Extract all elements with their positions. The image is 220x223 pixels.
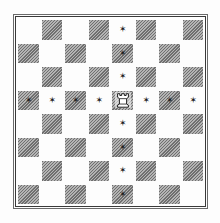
square-f3 <box>135 136 159 160</box>
star-marker-icon: ✶ <box>48 96 56 105</box>
square-d4 <box>88 112 112 136</box>
dark-square-hatching <box>42 161 63 181</box>
dark-square-hatching <box>136 161 157 181</box>
square-e7: ✶ <box>111 42 135 66</box>
star-marker-icon: ✶ <box>25 96 33 105</box>
star-marker-icon: ✶ <box>142 96 150 105</box>
square-e8: ✶ <box>111 18 135 42</box>
star-marker-icon: ✶ <box>119 25 127 34</box>
square-h8 <box>182 18 206 42</box>
dark-square-hatching <box>89 67 110 87</box>
square-h3 <box>182 136 206 160</box>
dark-square-hatching <box>65 185 86 205</box>
square-e3: ✶ <box>111 136 135 160</box>
square-h5: ✶ <box>182 89 206 113</box>
dark-square-hatching <box>183 161 204 181</box>
diagram-canvas: ✶✶✶✶✶✶✶✶✶✶✶✶✶✶ <box>0 0 220 223</box>
square-g4 <box>158 112 182 136</box>
square-e6: ✶ <box>111 65 135 89</box>
square-b2 <box>41 159 65 183</box>
square-d5: ✶ <box>88 89 112 113</box>
square-b1 <box>41 183 65 207</box>
dark-square-hatching <box>159 138 180 158</box>
square-a7 <box>17 42 41 66</box>
star-marker-icon: ✶ <box>119 190 127 199</box>
square-c6 <box>64 65 88 89</box>
dark-square-hatching <box>65 44 86 64</box>
star-marker-icon: ✶ <box>189 96 197 105</box>
square-h2 <box>182 159 206 183</box>
square-b5: ✶ <box>41 89 65 113</box>
square-c5: ✶ <box>64 89 88 113</box>
white-rook-icon <box>113 91 133 111</box>
square-f1 <box>135 183 159 207</box>
square-b7 <box>41 42 65 66</box>
square-f6 <box>135 65 159 89</box>
square-g6 <box>158 65 182 89</box>
square-g7 <box>158 42 182 66</box>
square-f7 <box>135 42 159 66</box>
square-a4 <box>17 112 41 136</box>
star-marker-icon: ✶ <box>95 96 103 105</box>
dark-square-hatching <box>42 20 63 40</box>
square-a6 <box>17 65 41 89</box>
dark-square-hatching <box>18 185 39 205</box>
square-g3 <box>158 136 182 160</box>
dark-square-hatching <box>18 44 39 64</box>
square-g5: ✶ <box>158 89 182 113</box>
square-g2 <box>158 159 182 183</box>
square-g1 <box>158 183 182 207</box>
square-f8 <box>135 18 159 42</box>
square-e5 <box>111 89 135 113</box>
square-f5: ✶ <box>135 89 159 113</box>
dark-square-hatching <box>18 138 39 158</box>
dark-square-hatching <box>89 20 110 40</box>
square-f4 <box>135 112 159 136</box>
square-c1 <box>64 183 88 207</box>
dark-square-hatching <box>89 161 110 181</box>
star-marker-icon: ✶ <box>119 143 127 152</box>
star-marker-icon: ✶ <box>119 166 127 175</box>
dark-square-hatching <box>136 114 157 134</box>
star-marker-icon: ✶ <box>166 96 174 105</box>
square-b8 <box>41 18 65 42</box>
square-a8 <box>17 18 41 42</box>
square-a3 <box>17 136 41 160</box>
dark-square-hatching <box>42 114 63 134</box>
square-b6 <box>41 65 65 89</box>
square-e4: ✶ <box>111 112 135 136</box>
square-d1 <box>88 183 112 207</box>
square-d3 <box>88 136 112 160</box>
square-c8 <box>64 18 88 42</box>
chessboard-inner-border: ✶✶✶✶✶✶✶✶✶✶✶✶✶✶ <box>15 16 206 207</box>
square-d2 <box>88 159 112 183</box>
square-e1: ✶ <box>111 183 135 207</box>
dark-square-hatching <box>136 67 157 87</box>
square-g8 <box>158 18 182 42</box>
star-marker-icon: ✶ <box>72 96 80 105</box>
dark-square-hatching <box>136 20 157 40</box>
square-d6 <box>88 65 112 89</box>
star-marker-icon: ✶ <box>119 72 127 81</box>
square-c7 <box>64 42 88 66</box>
square-c3 <box>64 136 88 160</box>
square-h7 <box>182 42 206 66</box>
square-d8 <box>88 18 112 42</box>
chessboard-outer-border: ✶✶✶✶✶✶✶✶✶✶✶✶✶✶ <box>13 14 208 209</box>
square-d7 <box>88 42 112 66</box>
star-marker-icon: ✶ <box>119 119 127 128</box>
square-f2 <box>135 159 159 183</box>
dark-square-hatching <box>89 114 110 134</box>
dark-square-hatching <box>183 114 204 134</box>
dark-square-hatching <box>159 44 180 64</box>
square-h6 <box>182 65 206 89</box>
square-b4 <box>41 112 65 136</box>
dark-square-hatching <box>183 20 204 40</box>
square-c4 <box>64 112 88 136</box>
chessboard-grid: ✶✶✶✶✶✶✶✶✶✶✶✶✶✶ <box>17 18 205 206</box>
square-a5: ✶ <box>17 89 41 113</box>
square-b3 <box>41 136 65 160</box>
dark-square-hatching <box>183 67 204 87</box>
square-a2 <box>17 159 41 183</box>
dark-square-hatching <box>42 67 63 87</box>
